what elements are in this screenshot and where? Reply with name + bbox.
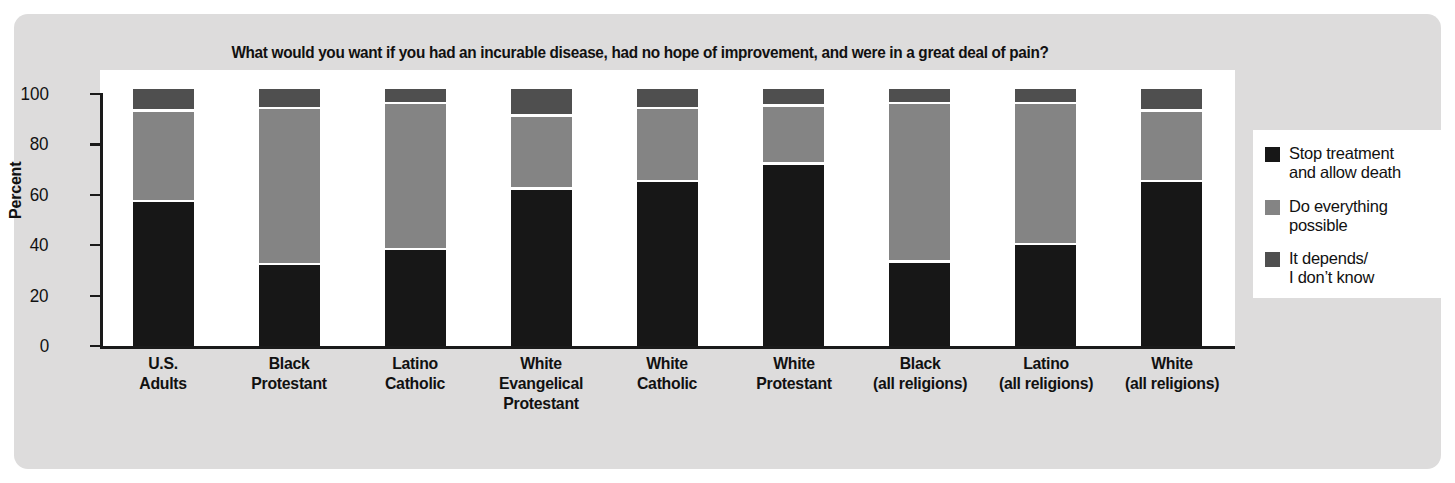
bar-group[interactable]: [637, 89, 698, 346]
legend-label-line: Do everything: [1289, 197, 1388, 216]
x-axis-label-line: Protestant: [735, 374, 852, 394]
bar-segment[interactable]: [511, 190, 572, 346]
legend-label: Do everythingpossible: [1289, 197, 1388, 236]
legend-label-line: possible: [1289, 216, 1388, 235]
x-axis-label: White(all religions): [1113, 354, 1230, 394]
x-axis-label-line: Protestant: [483, 394, 600, 414]
x-axis-label-line: Latino: [987, 354, 1104, 374]
x-axis-label-line: Catholic: [357, 374, 474, 394]
bar-segment[interactable]: [637, 182, 698, 346]
bar-segment[interactable]: [1141, 182, 1202, 346]
legend-item[interactable]: Do everythingpossible: [1265, 197, 1443, 236]
x-axis-label: WhiteProtestant: [735, 354, 852, 394]
bar-group[interactable]: [385, 89, 446, 346]
x-axis-label-line: White: [735, 354, 852, 374]
bar-segment[interactable]: [259, 109, 320, 263]
x-axis-label: WhiteEvangelicalProtestant: [483, 354, 600, 414]
bar-segment[interactable]: [1015, 104, 1076, 243]
bar-segment[interactable]: [763, 107, 824, 162]
y-tick-mark: [90, 93, 102, 95]
bar-segment[interactable]: [385, 104, 446, 248]
legend-label: Stop treatmentand allow death: [1289, 144, 1401, 183]
x-axis-label-line: (all religions): [861, 374, 978, 394]
bar-segment[interactable]: [133, 112, 194, 200]
x-axis-label: WhiteCatholic: [609, 354, 726, 394]
bar-segment[interactable]: [637, 89, 698, 107]
bar-group[interactable]: [1015, 89, 1076, 346]
plot-area: [100, 70, 1235, 347]
legend-label: It depends/I don’t know: [1289, 249, 1374, 288]
bar-segment[interactable]: [133, 89, 194, 109]
bar-segment[interactable]: [763, 165, 824, 346]
bar-group[interactable]: [259, 89, 320, 346]
legend-label-line: It depends/: [1289, 249, 1374, 268]
y-tick-mark: [90, 295, 102, 297]
bar-segment[interactable]: [259, 89, 320, 107]
y-tick-mark: [90, 143, 102, 145]
y-axis-title: Percent: [7, 162, 25, 219]
x-axis-label-line: Adults: [104, 374, 221, 394]
x-axis-label-line: Black: [861, 354, 978, 374]
y-tick-label: 80: [30, 133, 49, 155]
x-axis-label-line: White: [1113, 354, 1230, 374]
bar-segment[interactable]: [637, 109, 698, 180]
y-tick-label: 20: [30, 285, 49, 307]
bar-group[interactable]: [1141, 89, 1202, 346]
bar-segment[interactable]: [763, 89, 824, 104]
bar-segment[interactable]: [889, 263, 950, 346]
x-axis-label: LatinoCatholic: [357, 354, 474, 394]
x-axis-label-line: Protestant: [231, 374, 348, 394]
legend-swatch-icon: [1265, 147, 1280, 162]
x-axis-label: U.S.Adults: [104, 354, 221, 394]
bar-segment[interactable]: [511, 117, 572, 188]
bar-group[interactable]: [133, 89, 194, 346]
legend-swatch-icon: [1265, 252, 1280, 267]
chart-legend: Stop treatmentand allow deathDo everythi…: [1253, 130, 1443, 298]
x-axis-label-line: Catholic: [609, 374, 726, 394]
x-axis-label: Black(all religions): [861, 354, 978, 394]
bar-segment[interactable]: [259, 265, 320, 346]
y-axis-line: [100, 93, 103, 348]
bar-segment[interactable]: [889, 89, 950, 102]
y-tick-mark: [90, 345, 102, 347]
y-tick-mark: [90, 194, 102, 196]
bar-segment[interactable]: [511, 89, 572, 114]
legend-swatch-icon: [1265, 200, 1280, 215]
legend-label-line: Stop treatment: [1289, 144, 1401, 163]
bar-group[interactable]: [889, 89, 950, 346]
x-axis-label-line: Latino: [357, 354, 474, 374]
bar-segment[interactable]: [385, 250, 446, 346]
chart-title: What would you want if you had an incura…: [147, 43, 1133, 62]
legend-label-line: I don’t know: [1289, 268, 1374, 287]
bar-group[interactable]: [511, 89, 572, 346]
bar-segment[interactable]: [1141, 112, 1202, 180]
bar-segment[interactable]: [385, 89, 446, 102]
legend-label-line: and allow death: [1289, 163, 1401, 182]
y-tick-label: 0: [40, 335, 49, 357]
bar-group[interactable]: [763, 89, 824, 346]
bar-segment[interactable]: [1141, 89, 1202, 109]
x-axis-label: Latino(all religions): [987, 354, 1104, 394]
x-axis-label: BlackProtestant: [231, 354, 348, 394]
x-axis-label-line: U.S.: [104, 354, 221, 374]
legend-item[interactable]: It depends/I don’t know: [1265, 249, 1443, 288]
bar-segment[interactable]: [133, 202, 194, 346]
y-tick-label: 100: [21, 83, 49, 105]
bar-segment[interactable]: [889, 104, 950, 260]
chart-figure: What would you want if you had an incura…: [14, 14, 1441, 469]
bar-segment[interactable]: [1015, 245, 1076, 346]
x-axis-label-line: (all religions): [987, 374, 1104, 394]
y-tick-label: 40: [30, 234, 49, 256]
x-axis-label-line: Evangelical: [483, 374, 600, 394]
y-tick-mark: [90, 244, 102, 246]
x-axis-label-line: White: [609, 354, 726, 374]
x-axis-line: [100, 346, 1235, 349]
y-tick-label: 60: [30, 184, 49, 206]
x-axis-label-line: White: [483, 354, 600, 374]
legend-item[interactable]: Stop treatmentand allow death: [1265, 144, 1443, 183]
x-axis-label-line: (all religions): [1113, 374, 1230, 394]
x-axis-label-line: Black: [231, 354, 348, 374]
bar-segment[interactable]: [1015, 89, 1076, 102]
